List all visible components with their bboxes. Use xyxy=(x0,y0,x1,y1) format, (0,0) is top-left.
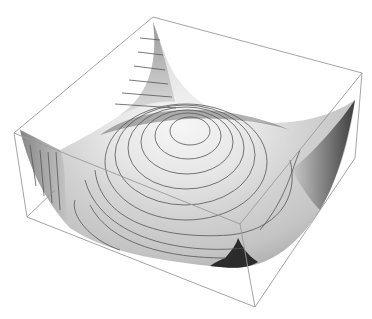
surface-plot xyxy=(0,0,372,319)
